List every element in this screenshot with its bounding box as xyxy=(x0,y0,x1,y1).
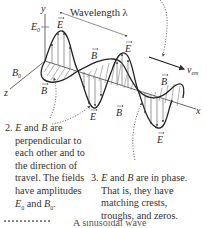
e-field-vectors xyxy=(52,33,163,126)
svg-text:B: B xyxy=(41,85,47,96)
z-axis-label: z xyxy=(3,87,8,98)
note-3: 3. E and B are in phase. That is, they h… xyxy=(91,172,207,222)
velocity-arrow xyxy=(149,57,184,69)
svg-text:E: E xyxy=(124,43,131,54)
svg-text:B: B xyxy=(116,107,122,118)
x-axis-label: x xyxy=(195,105,201,116)
y-axis-label: y xyxy=(40,3,46,14)
dotted-pointer-1 xyxy=(160,0,167,56)
velocity-label: vem xyxy=(187,64,199,76)
e0-label: E0 xyxy=(30,21,40,33)
svg-text:E: E xyxy=(89,111,96,122)
note-2: 2. E and B are perpendicular to each oth… xyxy=(5,122,97,214)
bottom-caption-partial: A sinusoidal wave xyxy=(0,220,207,228)
svg-text:B: B xyxy=(161,76,167,87)
x-axis xyxy=(45,61,196,109)
wavelength-label: Wavelength λ xyxy=(70,7,129,18)
svg-text:E: E xyxy=(56,19,63,30)
svg-text:B: B xyxy=(91,50,97,61)
caption-decor xyxy=(4,220,50,225)
b0-label: B0 xyxy=(12,67,21,79)
dotted-pointer-4 xyxy=(133,103,142,160)
svg-text:E: E xyxy=(156,134,163,145)
dotted-pointer-2 xyxy=(50,78,56,118)
